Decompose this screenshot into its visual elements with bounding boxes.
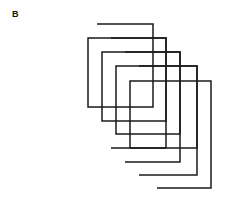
spiral-figure bbox=[0, 0, 239, 198]
figure-panel: B bbox=[0, 0, 239, 198]
spiral-path-4 bbox=[130, 66, 211, 188]
spiral-path-1 bbox=[88, 24, 166, 148]
spiral-path-2 bbox=[102, 38, 180, 162]
spiral-path-3 bbox=[116, 52, 197, 175]
